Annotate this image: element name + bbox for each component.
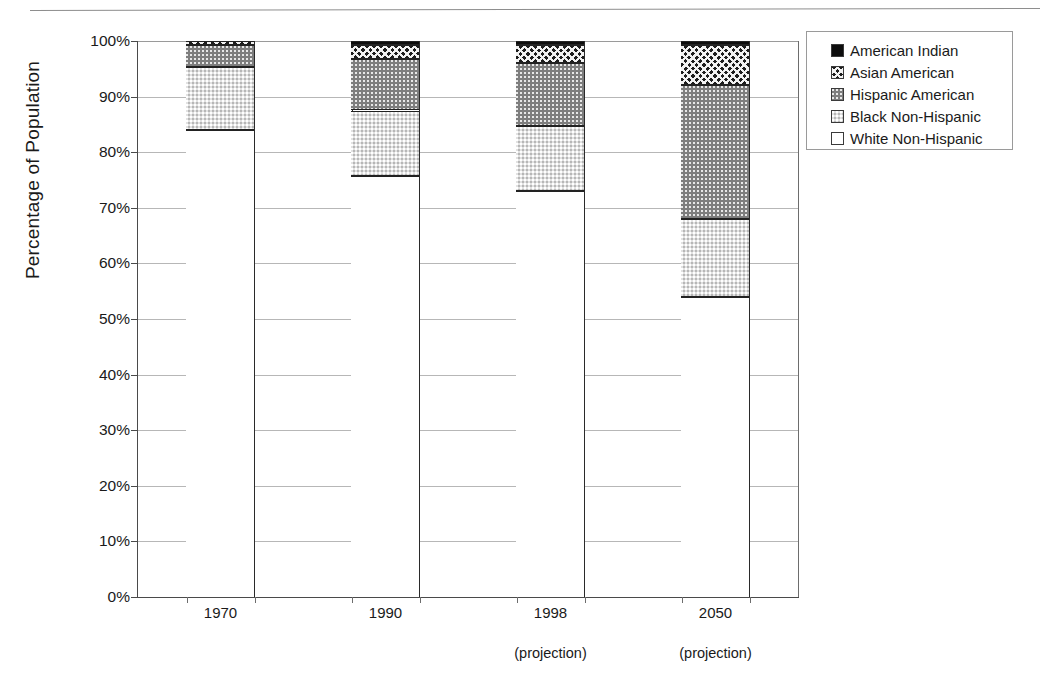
y-axis-tick-label: 10% <box>60 533 130 549</box>
bar-segment-1998-american-indian[interactable] <box>516 41 584 45</box>
bar-segment-1990-white-non-hispanic[interactable] <box>351 176 419 597</box>
x-axis-category-label: 1998 <box>534 604 567 621</box>
bar-segment-1990-asian-american[interactable] <box>351 45 419 58</box>
x-axis-tick <box>750 597 751 603</box>
y-axis-tick <box>131 541 138 542</box>
x-axis-category-sublabel: (projection) <box>471 646 631 661</box>
bar-segment-1998-asian-american[interactable] <box>516 45 584 63</box>
y-axis-tick <box>131 152 138 153</box>
legend-swatch-icon <box>831 110 844 123</box>
bar-segment-2050-white-non-hispanic[interactable] <box>681 297 749 597</box>
y-axis-tick <box>131 430 138 431</box>
bar-segment-1970-white-non-hispanic[interactable] <box>186 130 254 597</box>
plot-right-edge <box>798 41 799 597</box>
y-axis-tick-label: 30% <box>60 422 130 438</box>
chart-legend: American IndianAsian AmericanHispanic Am… <box>806 31 1013 150</box>
x-axis-tick <box>352 597 353 603</box>
bar-segment-1970-black-non-hispanic[interactable] <box>186 67 254 130</box>
y-axis-tick-label: 50% <box>60 311 130 327</box>
legend-item-black-non-hispanic[interactable]: Black Non-Hispanic <box>831 106 1012 127</box>
legend-item-white-non-hispanic[interactable]: White Non-Hispanic <box>831 128 1012 149</box>
legend-label: Black Non-Hispanic <box>850 109 981 124</box>
legend-swatch-icon <box>831 88 844 101</box>
x-axis-category-label: 1970 <box>204 604 237 621</box>
y-axis-tick-label: 40% <box>60 367 130 383</box>
y-axis-title: Percentage of Population <box>0 0 22 170</box>
legend-label: Asian American <box>850 65 954 80</box>
bar-segment-1998-white-non-hispanic[interactable] <box>516 191 584 597</box>
y-axis-tick-label: 0% <box>60 589 130 605</box>
y-axis-tick <box>131 486 138 487</box>
bar-segment-1998-black-non-hispanic[interactable] <box>516 126 584 192</box>
x-axis-label-group-1990: 1990 <box>306 604 466 622</box>
y-axis-tick <box>131 97 138 98</box>
bar-segment-1990-hispanic-american[interactable] <box>351 59 419 111</box>
x-axis-tick <box>420 597 421 603</box>
legend-item-hispanic-american[interactable]: Hispanic American <box>831 84 1012 105</box>
bar-segment-2050-black-non-hispanic[interactable] <box>681 219 749 297</box>
x-axis-label-group-1998: 1998(projection) <box>471 604 631 661</box>
bar-2050[interactable] <box>682 41 750 597</box>
legend-label: Hispanic American <box>850 87 974 102</box>
y-axis-title-text: Percentage of Population <box>22 10 44 330</box>
x-axis-tick <box>682 597 683 603</box>
x-axis-tick <box>517 597 518 603</box>
bar-segment-1990-black-non-hispanic[interactable] <box>351 111 419 177</box>
y-axis-tick <box>131 375 138 376</box>
bar-segment-2050-asian-american[interactable] <box>681 45 749 85</box>
x-axis-label-group-2050: 2050(projection) <box>636 604 796 661</box>
y-axis-tick-label: 90% <box>60 89 130 105</box>
bar-segment-1970-asian-american[interactable] <box>186 41 254 45</box>
y-axis-tick-label: 20% <box>60 478 130 494</box>
y-axis-tick-labels: 100%90%80%70%60%50%40%30%20%10%0% <box>50 41 130 597</box>
x-axis-tick <box>187 597 188 603</box>
x-axis-label-group-1970: 1970 <box>141 604 301 622</box>
bar-segment-1990-american-indian[interactable] <box>351 41 419 45</box>
y-axis-tick <box>131 263 138 264</box>
x-axis-line <box>137 597 799 598</box>
x-axis-tick <box>585 597 586 603</box>
legend-item-asian-american[interactable]: Asian American <box>831 62 1012 83</box>
stacked-bar-chart: Percentage of Population 100%90%80%70%60… <box>0 0 1048 677</box>
legend-swatch-icon <box>831 132 844 145</box>
x-axis-category-label: 1990 <box>369 604 402 621</box>
x-axis-category-sublabel: (projection) <box>636 646 796 661</box>
y-axis-tick <box>131 597 138 598</box>
y-axis-tick <box>131 319 138 320</box>
y-axis-tick <box>131 41 138 42</box>
bar-segment-1970-hispanic-american[interactable] <box>186 45 254 67</box>
legend-item-american-indian[interactable]: American Indian <box>831 40 1012 61</box>
y-axis-tick-label: 100% <box>60 33 130 49</box>
x-axis-category-label: 2050 <box>699 604 732 621</box>
plot-area <box>138 41 798 597</box>
bar-1970[interactable] <box>187 41 255 597</box>
bar-segment-2050-american-indian[interactable] <box>681 41 749 45</box>
legend-swatch-icon <box>831 44 844 57</box>
bar-1990[interactable] <box>352 41 420 597</box>
y-axis-tick <box>131 208 138 209</box>
x-axis-tick <box>255 597 256 603</box>
bar-segment-2050-hispanic-american[interactable] <box>681 85 749 218</box>
y-axis-tick-label: 60% <box>60 255 130 271</box>
y-axis-tick-label: 70% <box>60 200 130 216</box>
legend-label: White Non-Hispanic <box>850 131 983 146</box>
y-axis-tick-label: 80% <box>60 144 130 160</box>
x-axis-category-labels: 197019901998(projection)2050(projection) <box>138 604 798 664</box>
legend-label: American Indian <box>850 43 958 58</box>
bar-1998[interactable] <box>517 41 585 597</box>
legend-swatch-icon <box>831 66 844 79</box>
bar-segment-1998-hispanic-american[interactable] <box>516 63 584 125</box>
